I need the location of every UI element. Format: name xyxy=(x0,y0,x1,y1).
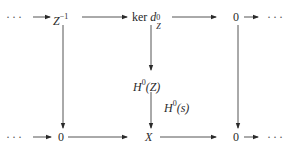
node-z-minus-1: Z−1 xyxy=(53,10,68,28)
node-bottom-right-zero: 0 xyxy=(233,130,239,144)
node-z-base: Z xyxy=(53,14,60,28)
label-h0-s: H0(s) xyxy=(164,97,189,115)
node-z-sup: −1 xyxy=(60,12,69,21)
label-h0s-base: H xyxy=(164,101,173,115)
node-bottom-left-zero: 0 xyxy=(58,130,64,144)
node-h0z-arg: (Z) xyxy=(146,80,161,94)
label-h0s-arg: (s) xyxy=(177,101,190,115)
bottom-left-ellipsis: ··· xyxy=(6,130,24,144)
top-left-ellipsis: ··· xyxy=(6,10,24,24)
top-right-ellipsis: ··· xyxy=(267,10,285,24)
node-h0-z: H0(Z) xyxy=(133,76,160,94)
node-x: X xyxy=(145,130,152,144)
node-h0z-base: H xyxy=(133,80,142,94)
node-ker-prefix: ker xyxy=(132,10,150,24)
node-ker-sub: Z xyxy=(156,20,160,34)
node-ker-d0z: ker d0Z xyxy=(132,10,164,24)
node-top-zero: 0 xyxy=(233,10,239,24)
bottom-right-ellipsis: ··· xyxy=(267,130,285,144)
